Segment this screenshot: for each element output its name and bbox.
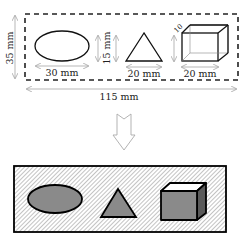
diagram-canvas: 35 mm 30 mm 15 mm 20 mm 10 20 mm (0, 0, 245, 238)
triangle-outline (126, 33, 162, 61)
overall-height-label: 35 mm (4, 31, 15, 64)
ellipse-width-label: 30 mm (45, 67, 78, 78)
triangle-width-label: 20 mm (127, 68, 160, 79)
down-arrow-icon (113, 114, 135, 150)
shape-height-label: 15 mm (101, 31, 112, 64)
overall-width-label: 115 mm (99, 91, 138, 102)
box-wireframe (182, 25, 228, 61)
filled-ellipse (28, 185, 82, 213)
bottom-panel (14, 166, 226, 232)
box-width-label: 20 mm (183, 68, 216, 79)
top-panel: 35 mm 30 mm 15 mm 20 mm 10 20 mm (4, 14, 238, 102)
ellipse-outline (35, 31, 89, 61)
filled-box (161, 183, 206, 220)
